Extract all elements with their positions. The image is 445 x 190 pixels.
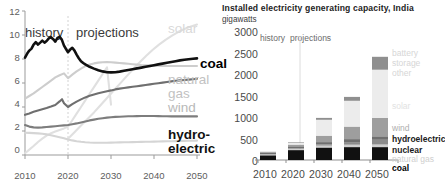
bar-2030-solar — [316, 120, 332, 136]
bar-2020-hydro — [288, 146, 304, 148]
bar-2030-battery — [316, 118, 332, 120]
right-legend-battery-1: battery — [392, 48, 418, 58]
bar-2020 — [288, 142, 304, 160]
bar-2020-battery — [288, 142, 304, 143]
bar-2020-coal — [288, 150, 304, 160]
bar-2010-natgas — [260, 155, 276, 156]
bar-2040-natgas — [344, 145, 360, 147]
bar-2040 — [344, 97, 360, 160]
bar-2030-natgas — [316, 146, 332, 148]
bar-2030 — [316, 118, 332, 160]
left-label-solar: solar — [168, 22, 197, 36]
bar-2030-wind — [316, 136, 332, 142]
left-label-gas: gas — [168, 87, 190, 101]
bar-2010 — [260, 152, 276, 160]
left-label-hydro-1: hydro- — [168, 128, 210, 142]
bar-2020-solar — [288, 143, 304, 145]
left-label-hydro-2: electric — [168, 142, 215, 156]
bar-2050-natgas — [372, 145, 388, 148]
bar-2050-nuclear — [372, 140, 388, 145]
bar-2010-coal — [260, 155, 276, 160]
bar-2010-hydro — [260, 153, 276, 155]
bar-2050-battery — [372, 57, 388, 70]
bar-2030-coal — [316, 148, 332, 161]
bar-2040-battery — [344, 97, 360, 101]
bar-2050-coal — [372, 147, 388, 160]
left-label-natural: natural — [168, 73, 209, 87]
bar-2040-wind — [344, 127, 360, 140]
bar-2030-hydro — [316, 142, 332, 144]
right-legend-solar: solar — [392, 101, 410, 111]
right-legend-coal: coal — [392, 163, 409, 173]
right-legend-wind: wind — [392, 123, 409, 133]
left-label-wind: wind — [168, 101, 196, 115]
right-legend-battery-2: storage — [392, 58, 420, 68]
bar-2050-solar — [372, 70, 388, 118]
right-legend-other: other — [392, 68, 411, 78]
bar-2040-coal — [344, 147, 360, 160]
bar-2050-hydro — [372, 136, 388, 140]
bar-2020-wind — [288, 145, 304, 147]
bar-2030-nuclear — [316, 145, 332, 146]
bar-2010-wind — [260, 152, 276, 153]
left-series-coal — [25, 37, 197, 73]
right-legend-hydroelectric: hydroelectric — [392, 134, 445, 144]
right-chart-panel: Installed electricity generating capacit… — [220, 0, 443, 190]
left-chart-panel: 0 2 4 6 8 10 12 2010 2020 2030 2040 2050… — [0, 0, 222, 190]
bar-2050 — [372, 57, 388, 160]
bar-2040-nuclear — [344, 142, 360, 145]
bar-2050-wind — [372, 118, 388, 137]
bar-2020-natgas — [288, 149, 304, 150]
bar-2040-hydro — [344, 139, 360, 142]
bar-2040-solar — [344, 101, 360, 127]
left-series-hydro — [25, 116, 197, 128]
